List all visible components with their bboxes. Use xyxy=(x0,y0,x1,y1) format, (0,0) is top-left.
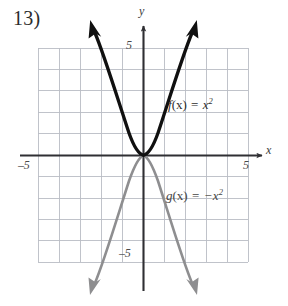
function-g-equals: = xyxy=(191,188,200,203)
y-axis-tick-5: 5 xyxy=(126,39,132,51)
function-f-argument: (x) xyxy=(172,97,187,112)
function-g-argument: (x) xyxy=(173,188,188,203)
function-g-exponent: 2 xyxy=(219,187,223,197)
function-f-equals: = xyxy=(190,97,199,112)
worksheet-problem-figure: 13) y x 5 –5 –5 5 f(x) = x2 g(x) = −x2 xyxy=(0,0,288,306)
y-axis-tick-minus-5: –5 xyxy=(119,247,130,259)
function-g-sign: − xyxy=(204,188,213,203)
x-axis-tick-5: 5 xyxy=(243,159,249,171)
x-axis-label: x xyxy=(266,144,271,156)
graph-canvas xyxy=(0,0,288,306)
function-f-exponent: 2 xyxy=(208,96,212,106)
function-label-g: g(x) = −x2 xyxy=(166,189,223,202)
function-label-f: f(x) = x2 xyxy=(168,98,213,111)
y-axis-label: y xyxy=(139,5,144,17)
x-axis-tick-minus-5: –5 xyxy=(18,159,29,171)
problem-number: 13) xyxy=(13,8,40,28)
